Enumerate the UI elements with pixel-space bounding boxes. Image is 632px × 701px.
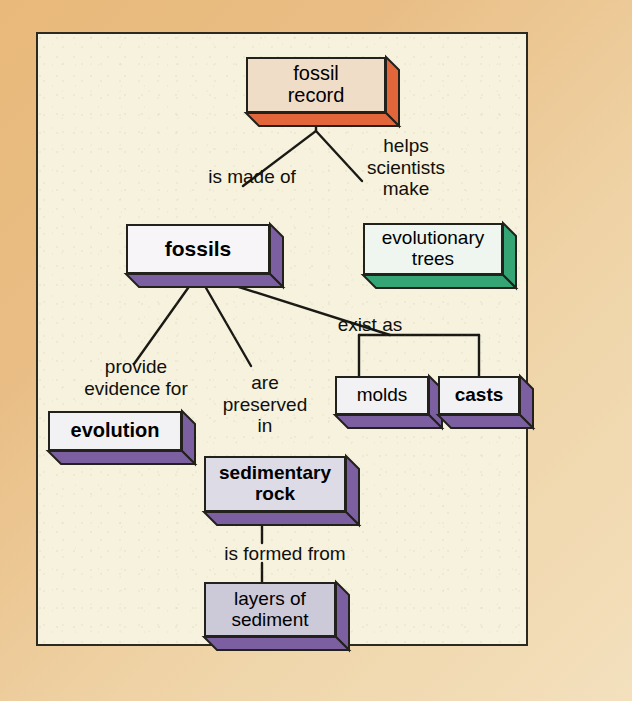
node-fossil-record[interactable]: fossil record (246, 57, 386, 113)
edge-label-are-preserved-in: are preserved in (210, 372, 320, 437)
node-evolutionary-trees[interactable]: evolutionary trees (363, 223, 503, 275)
node-layers-of-sediment[interactable]: layers of sediment (204, 582, 336, 637)
edge-label-is-formed-from: is formed from (200, 543, 370, 565)
node-fossils-face: fossils (126, 224, 270, 274)
edge-label-provide-evidence-for: provide evidence for (66, 356, 206, 399)
node-fossil-record-label: fossil record (288, 63, 345, 106)
node-fossils-label: fossils (165, 238, 232, 261)
edge-label-helps-scientists-make: helps scientists make (351, 135, 461, 200)
concept-map-page: fossil record fossils evolutionary trees (0, 0, 632, 701)
node-evolution-label: evolution (71, 420, 160, 442)
node-sedimentary-rock-face: sedimentary rock (204, 456, 346, 512)
node-evolution-face: evolution (48, 411, 182, 451)
node-layers-of-sediment-face: layers of sediment (204, 582, 336, 637)
node-molds-label: molds (357, 385, 408, 406)
diagram-canvas: fossil record fossils evolutionary trees (36, 32, 528, 646)
node-casts[interactable]: casts (438, 376, 520, 415)
node-evolutionary-trees-label: evolutionary trees (382, 228, 484, 269)
node-molds[interactable]: molds (335, 376, 429, 415)
node-evolutionary-trees-face: evolutionary trees (363, 223, 503, 275)
node-evolution[interactable]: evolution (48, 411, 182, 451)
node-layers-of-sediment-label: layers of sediment (231, 589, 308, 630)
edge-label-is-made-of: is made of (192, 166, 312, 188)
node-fossil-record-face: fossil record (246, 57, 386, 113)
node-casts-label: casts (455, 385, 504, 406)
node-molds-face: molds (335, 376, 429, 415)
node-casts-face: casts (438, 376, 520, 415)
node-sedimentary-rock[interactable]: sedimentary rock (204, 456, 346, 512)
node-sedimentary-rock-label: sedimentary rock (219, 463, 331, 504)
node-fossils[interactable]: fossils (126, 224, 270, 274)
edge-label-exist-as: exist as (320, 314, 420, 336)
